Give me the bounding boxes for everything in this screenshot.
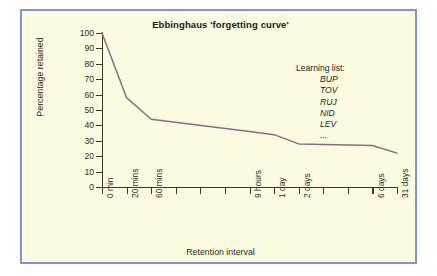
learning-list-item: ...	[294, 130, 404, 141]
learning-list-item: LEV	[294, 119, 404, 130]
learning-list-item: RUJ	[294, 97, 404, 108]
chart-plot-area: Ebbinghaus 'forgetting curve' Percentage…	[22, 11, 419, 266]
learning-list-item: TOV	[294, 85, 404, 96]
learning-list-item: BUP	[294, 74, 404, 85]
learning-list-annotation: Learning list: BUPTOVRUJNIDLEV...	[294, 63, 404, 141]
figure-frame: Ebbinghaus 'forgetting curve' Percentage…	[20, 9, 417, 264]
learning-list-items: BUPTOVRUJNIDLEV...	[294, 74, 404, 141]
learning-list-item: NID	[294, 108, 404, 119]
learning-list-heading: Learning list:	[294, 63, 404, 74]
